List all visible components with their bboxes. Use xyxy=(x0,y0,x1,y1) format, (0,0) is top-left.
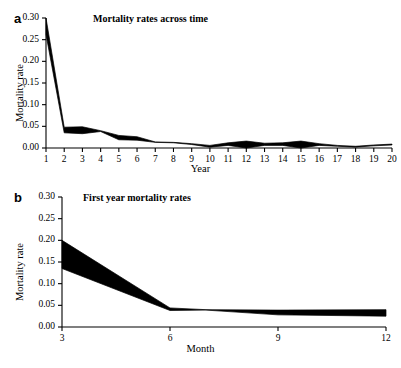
figure-container: a Mortality rates across time Mortality … xyxy=(0,0,401,368)
chart-panel-b: b First year mortality rates Mortality r… xyxy=(0,183,401,368)
chart-panel-a: a Mortality rates across time Mortality … xyxy=(0,0,401,185)
plot-area-a xyxy=(0,0,401,185)
plot-area-b xyxy=(0,183,401,368)
confidence-band xyxy=(46,18,392,148)
confidence-band xyxy=(62,240,386,316)
